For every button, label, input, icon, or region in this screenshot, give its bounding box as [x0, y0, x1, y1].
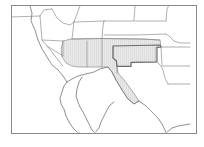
region-map	[0, 0, 204, 147]
map-border	[12, 6, 197, 134]
map-figure: Small outline map of the western and cen…	[0, 0, 204, 147]
border-wy-co	[72, 39, 102, 40]
